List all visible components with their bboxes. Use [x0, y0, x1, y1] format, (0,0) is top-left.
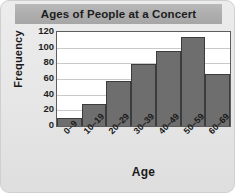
y-tick-label: 80 — [23, 57, 54, 67]
x-tick: 60–69 — [206, 127, 231, 161]
y-tick-label: 60 — [23, 73, 54, 83]
x-axis-title: Age — [56, 165, 231, 179]
y-tick-label: 20 — [23, 104, 54, 114]
y-axis-tick-labels: 020406080100120 — [23, 25, 54, 133]
bar-series — [57, 32, 230, 126]
y-tick-label: 40 — [23, 89, 54, 99]
x-tick: 50–59 — [181, 127, 206, 161]
x-axis-tick-labels: 0–910–1920–2930–3940–4950–5960–69 — [56, 127, 231, 161]
x-tick: 20–29 — [106, 127, 131, 161]
x-tick: 40–49 — [156, 127, 181, 161]
x-tick: 0–9 — [56, 127, 81, 161]
y-tick-label: 100 — [23, 42, 54, 52]
x-tick: 30–39 — [131, 127, 156, 161]
chart-card: Ages of People at a Concert Frequency 02… — [0, 0, 235, 193]
x-tick: 10–19 — [81, 127, 106, 161]
plot-area — [56, 31, 231, 127]
chart-title: Ages of People at a Concert — [41, 8, 196, 20]
chart-title-banner: Ages of People at a Concert — [15, 4, 222, 24]
y-tick-label: 120 — [23, 26, 54, 36]
y-tick-label: 0 — [23, 120, 54, 130]
